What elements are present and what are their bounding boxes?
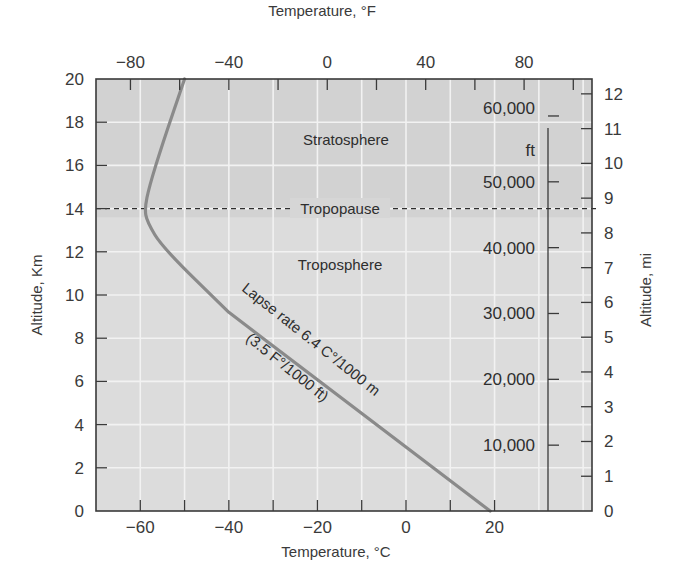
bottom-tick-label: 20 xyxy=(485,518,504,537)
feet-tick-label: 40,000 xyxy=(483,239,535,258)
top-tick-label: 0 xyxy=(323,53,332,72)
top-tick-label: −80 xyxy=(116,53,145,72)
right-tick-label: 9 xyxy=(604,189,613,208)
bottom-axis-title: Temperature, °C xyxy=(281,543,391,560)
left-tick-label: 4 xyxy=(75,416,84,435)
feet-tick-label: 50,000 xyxy=(483,173,535,192)
atmosphere-temperature-chart: −60−40−20020−80−400408002468101214161820… xyxy=(0,0,684,577)
right-tick-label: 7 xyxy=(604,259,613,278)
right-tick-label: 3 xyxy=(604,398,613,417)
bottom-tick-label: 0 xyxy=(401,518,410,537)
right-tick-label: 6 xyxy=(604,293,613,312)
troposphere-label: Troposphere xyxy=(298,256,383,273)
left-tick-label: 10 xyxy=(65,286,84,305)
left-tick-label: 2 xyxy=(75,459,84,478)
left-tick-label: 14 xyxy=(65,200,84,219)
left-tick-label: 0 xyxy=(75,502,84,521)
right-tick-label: 4 xyxy=(604,363,613,382)
right-tick-label: 12 xyxy=(604,85,623,104)
bottom-tick-label: −20 xyxy=(303,518,332,537)
bottom-tick-label: −60 xyxy=(126,518,155,537)
left-tick-label: 12 xyxy=(65,243,84,262)
right-tick-label: 5 xyxy=(604,328,613,347)
right-tick-label: 11 xyxy=(604,120,622,139)
feet-tick-label: 60,000 xyxy=(483,99,535,118)
right-tick-label: 0 xyxy=(604,502,613,521)
right-axis-title: Altitude, mi xyxy=(637,253,654,327)
left-tick-label: 20 xyxy=(65,70,84,89)
left-tick-label: 6 xyxy=(75,372,84,391)
feet-unit-label: ft xyxy=(526,141,536,160)
feet-tick-label: 20,000 xyxy=(483,370,535,389)
bottom-tick-label: −40 xyxy=(214,518,243,537)
feet-tick-label: 10,000 xyxy=(483,436,535,455)
left-tick-label: 8 xyxy=(75,329,84,348)
top-tick-label: 80 xyxy=(515,53,534,72)
right-tick-label: 10 xyxy=(604,154,623,173)
left-tick-label: 18 xyxy=(65,113,84,132)
top-tick-label: −40 xyxy=(214,53,243,72)
top-tick-label: 40 xyxy=(416,53,435,72)
left-tick-label: 16 xyxy=(65,156,84,175)
right-tick-label: 1 xyxy=(604,467,613,486)
top-axis-title: Temperature, °F xyxy=(268,2,376,19)
left-axis-title: Altitude, Km xyxy=(28,255,45,336)
right-tick-label: 2 xyxy=(604,432,613,451)
tropopause-label: Tropopause xyxy=(300,200,380,217)
stratosphere-label: Stratosphere xyxy=(303,131,389,148)
right-tick-label: 8 xyxy=(604,224,613,243)
feet-tick-label: 30,000 xyxy=(483,304,535,323)
